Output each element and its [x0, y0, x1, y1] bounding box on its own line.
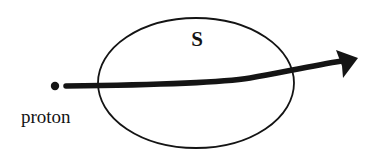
proton-dot	[51, 82, 59, 90]
surface-label: S	[191, 27, 203, 51]
proton-label: proton	[21, 106, 71, 127]
proton-trajectory-line	[66, 61, 342, 86]
proton-surface-diagram: S proton	[0, 0, 376, 160]
